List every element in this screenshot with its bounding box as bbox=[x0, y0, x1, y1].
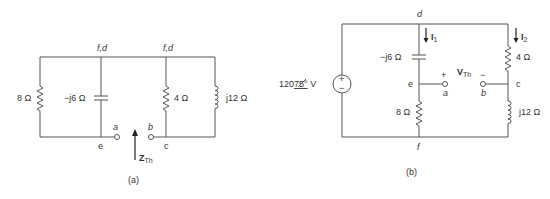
terminal-a-label: a bbox=[443, 88, 448, 98]
caption-a: (a) bbox=[128, 175, 139, 185]
node-e-label: e bbox=[98, 141, 103, 151]
vth-minus: − bbox=[480, 70, 485, 80]
terminal-a bbox=[115, 135, 120, 140]
node-label: f,d bbox=[97, 43, 108, 53]
caption-b: (b) bbox=[406, 167, 417, 177]
r2-label: 4 Ω bbox=[174, 93, 189, 103]
ind-label: j12 Ω bbox=[225, 93, 248, 103]
r8-label: 8 Ω bbox=[396, 107, 411, 117]
vth-label: VTh bbox=[457, 67, 471, 78]
cap-label: −j6 Ω bbox=[380, 52, 402, 62]
terminal-b-label: b bbox=[148, 122, 153, 132]
branch-cap-r8 bbox=[412, 24, 426, 137]
capacitor-j6 bbox=[94, 57, 114, 137]
inductor-j12 bbox=[215, 57, 218, 137]
terminal-b bbox=[481, 82, 486, 87]
node-label: f,d bbox=[163, 43, 174, 53]
node-e-label: e bbox=[408, 79, 413, 89]
zth-label: ZTh bbox=[139, 153, 153, 164]
ind-label: j12 Ω bbox=[518, 107, 541, 117]
arrowhead-icon bbox=[132, 129, 138, 136]
node-d-label: d bbox=[417, 9, 423, 19]
node-c-label: c bbox=[164, 141, 169, 151]
circuit-a: f,d f,d 8 Ω −j6 Ω 4 Ω j12 Ω a b e c ZTh … bbox=[17, 43, 248, 185]
r4-label: 4 Ω bbox=[516, 52, 531, 62]
i1-arrow-icon bbox=[424, 38, 429, 43]
terminal-b-label: b bbox=[481, 88, 486, 98]
branch-r4-ind bbox=[505, 24, 511, 137]
i2-arrow-icon bbox=[514, 38, 519, 43]
source-minus: − bbox=[339, 83, 344, 93]
terminal-a bbox=[443, 82, 448, 87]
r1-label: 8 Ω bbox=[17, 93, 32, 103]
vth-plus: + bbox=[441, 70, 446, 80]
i1-label: I1 bbox=[431, 32, 438, 43]
circuit-b: + − d I1 I2 −j6 Ω 4 Ω e + VTh − a b c 8 … bbox=[279, 9, 541, 177]
i2-label: I2 bbox=[521, 32, 528, 43]
source-label: 12075° V bbox=[279, 79, 316, 89]
circuit-figure: f,d f,d 8 Ω −j6 Ω 4 Ω j12 Ω a b e c ZTh … bbox=[0, 0, 550, 199]
terminal-b bbox=[149, 135, 154, 140]
node-f-label: f bbox=[417, 142, 421, 152]
node-c-label: c bbox=[516, 79, 521, 89]
cap-label: −j6 Ω bbox=[64, 93, 86, 103]
terminal-a-label: a bbox=[113, 122, 118, 132]
